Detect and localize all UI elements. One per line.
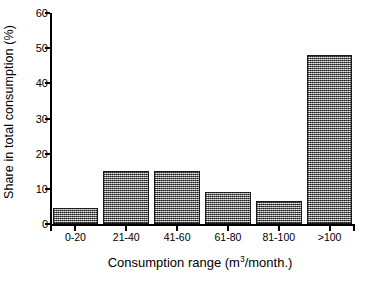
x-axis-tick-label-0-20: 0-20	[65, 231, 86, 243]
y-axis-tick-mark	[45, 223, 50, 225]
y-axis-tick-mark	[45, 82, 50, 84]
x-axis-tick-labels: 0-2021-4041-6061-8081-100>100	[50, 231, 355, 247]
plot-area	[50, 13, 355, 224]
bar-81-100	[256, 201, 302, 224]
x-axis-title: Consumption range (m3/month.)	[40, 255, 360, 270]
y-axis-tick-mark	[45, 188, 50, 190]
x-axis-tick-label-61-80: 61-80	[214, 231, 241, 243]
bar->100	[307, 55, 353, 224]
bar-21-40	[103, 171, 149, 224]
y-axis-tick-mark	[45, 47, 50, 49]
x-axis-tick-label->100: >100	[318, 231, 342, 243]
y-axis-tick-mark	[45, 153, 50, 155]
y-axis-tick-mark	[45, 118, 50, 120]
bar-61-80	[205, 192, 251, 224]
y-axis-title: Share in total consumption (%)	[0, 0, 18, 224]
bar-chart-figure: Share in total consumption (%) 010203040…	[0, 0, 373, 282]
x-axis-tick-label-41-60: 41-60	[164, 231, 191, 243]
bar-41-60	[154, 171, 200, 224]
x-axis-title-before: Consumption range (m	[108, 255, 240, 270]
bar-series	[50, 13, 355, 224]
x-axis-title-after: /month.)	[245, 255, 293, 270]
x-axis-tick-label-21-40: 21-40	[113, 231, 140, 243]
y-axis-tick-labels: 0102030405060	[20, 0, 48, 232]
bar-0-20	[53, 208, 99, 224]
x-axis-tick-label-81-100: 81-100	[262, 231, 295, 243]
y-axis-tick-mark	[45, 12, 50, 14]
x-axis-line	[50, 224, 355, 226]
